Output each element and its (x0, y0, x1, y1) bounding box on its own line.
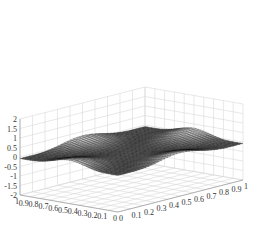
y-tick-label: 0.3 (78, 209, 88, 218)
y-tick-label: 0.1 (97, 212, 107, 221)
y-tick-label: 0.6 (48, 204, 58, 213)
y-tick-label: 0.4 (68, 207, 78, 216)
x-tick-label: 0 (119, 214, 123, 223)
y-tick-label: 1 (15, 197, 19, 206)
z-tick-label: 0 (13, 153, 17, 162)
x-tick-label: 0.5 (182, 198, 192, 207)
z-tick-label: 0.5 (7, 144, 17, 153)
x-tick-label: 0.9 (232, 185, 242, 194)
x-tick-label: 0.1 (132, 211, 142, 220)
x-tick-label: 0.2 (144, 208, 154, 217)
x-tick-label: 0.7 (207, 192, 217, 201)
y-tick-label: 0.7 (38, 202, 48, 211)
y-tick-label: 0 (113, 214, 117, 223)
y-tick-label: 0.5 (58, 206, 68, 215)
y-tick-label: 0.9 (19, 199, 29, 208)
x-tick-label: 0.3 (157, 204, 167, 213)
y-tick-label: 0.2 (87, 211, 97, 220)
y-tick-label: 0.8 (29, 200, 39, 209)
x-tick-label: 0.8 (219, 188, 229, 197)
z-tick-label: 2 (13, 115, 17, 124)
z-tick-label: 1 (13, 134, 17, 143)
surface-mesh (20, 127, 243, 176)
z-tick-label: -1 (10, 172, 17, 181)
z-tick-label: -0.5 (4, 163, 17, 172)
z-tick-label: 1.5 (7, 125, 17, 134)
x-tick-label: 0.6 (194, 195, 204, 204)
z-tick-label: -1.5 (4, 182, 17, 191)
x-tick-label: 0.4 (169, 201, 179, 210)
surface-plot: -2-1.5-1-0.500.511.5200.10.20.30.40.50.6… (0, 0, 256, 234)
x-tick-label: 1 (244, 182, 248, 191)
